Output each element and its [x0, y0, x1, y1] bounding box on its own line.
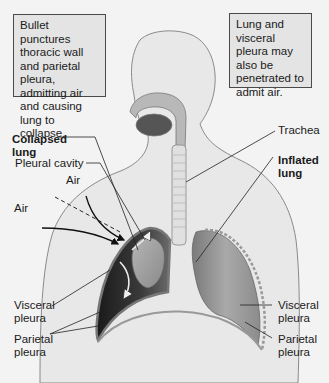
- label-inflated-lung: Inflated lung: [278, 154, 319, 180]
- label-collapsed-lung: Collapsed lung: [12, 133, 67, 159]
- trachea: [172, 145, 186, 245]
- label-visceral-pleura-right: Visceral pleura: [278, 299, 319, 325]
- label-air-upper: Air: [66, 174, 80, 187]
- label-air-lower: Air: [14, 202, 28, 215]
- label-trachea: Trachea: [278, 124, 320, 137]
- label-parietal-pleura-left: Parietal pleura: [14, 333, 53, 359]
- label-visceral-pleura-left: Visceral pleura: [14, 299, 55, 325]
- callout-lung-penetration: Lung and visceral pleura may also be pen…: [229, 13, 312, 88]
- label-parietal-pleura-right: Parietal pleura: [278, 333, 317, 359]
- callout-bullet-puncture: Bullet punctures thoracic wall and parie…: [13, 14, 106, 97]
